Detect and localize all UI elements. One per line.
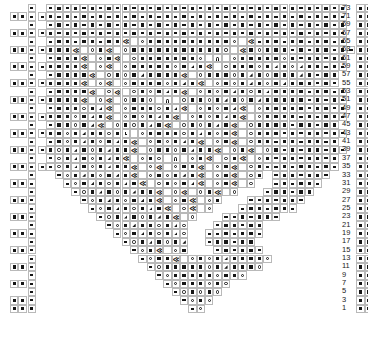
dash-symbol <box>29 97 35 103</box>
dash-symbol <box>47 105 53 111</box>
chart-cell <box>330 138 338 146</box>
chart-cell <box>205 96 213 104</box>
open-circle-symbol <box>123 47 129 53</box>
filled-square-symbol <box>56 22 62 28</box>
filled-square-symbol <box>231 222 237 228</box>
chart-cell <box>180 129 188 137</box>
filled-square-symbol <box>298 13 304 19</box>
dash-symbol <box>273 139 279 145</box>
dash-symbol <box>206 230 212 236</box>
open-circle-symbol <box>198 289 204 295</box>
chart-cell <box>138 146 146 154</box>
right-border-stitch <box>356 238 364 246</box>
triangle-bottom-right-symbol <box>223 264 229 270</box>
double-chevron-symbol: ≪ <box>72 47 78 53</box>
triangle-bottom-right-symbol <box>81 130 87 136</box>
dash-symbol <box>189 13 195 19</box>
filled-square-symbol <box>264 122 270 128</box>
dash-symbol <box>231 214 237 220</box>
filled-square-symbol <box>331 139 337 145</box>
chart-cell <box>147 54 155 62</box>
open-circle-symbol <box>97 97 103 103</box>
triangle-bottom-right-symbol <box>89 122 95 128</box>
dash-symbol <box>39 80 45 86</box>
chart-cell <box>247 113 255 121</box>
filled-square-symbol <box>306 80 312 86</box>
dash-symbol <box>139 13 145 19</box>
chart-cell <box>55 37 63 45</box>
filled-square-symbol <box>19 230 25 236</box>
filled-square-symbol <box>106 172 112 178</box>
dash-symbol <box>181 297 187 303</box>
dash-symbol <box>39 130 45 136</box>
left-border-stitch <box>10 129 18 137</box>
chart-cell <box>55 12 63 20</box>
filled-square-symbol <box>139 97 145 103</box>
chart-cell <box>88 129 96 137</box>
dash-symbol <box>29 264 35 270</box>
chart-cell <box>255 96 263 104</box>
dash-symbol <box>89 205 95 211</box>
triangle-bottom-right-symbol <box>264 89 270 95</box>
filled-square-symbol <box>273 38 279 44</box>
chart-cell <box>122 196 130 204</box>
chart-cell <box>280 154 288 162</box>
chart-cell <box>155 96 163 104</box>
filled-square-symbol <box>156 89 162 95</box>
filled-square-symbol <box>281 180 287 186</box>
chart-cell <box>80 71 88 79</box>
right-border-stitch <box>365 188 368 196</box>
filled-square-symbol <box>223 230 229 236</box>
filled-square-symbol <box>248 13 254 19</box>
filled-square-symbol <box>56 80 62 86</box>
double-chevron-symbol: ≪ <box>131 139 137 145</box>
chart-cell <box>255 104 263 112</box>
filled-square-symbol <box>223 72 229 78</box>
filled-square-symbol <box>298 38 304 44</box>
filled-square-symbol <box>139 89 145 95</box>
filled-square-symbol <box>164 264 170 270</box>
filled-square-symbol <box>189 130 195 136</box>
filled-square-symbol <box>11 80 17 86</box>
chart-cell <box>247 62 255 70</box>
filled-square-symbol <box>256 222 262 228</box>
open-circle-symbol <box>173 180 179 186</box>
chart-cell <box>247 246 255 254</box>
filled-square-symbol <box>11 97 17 103</box>
open-circle-symbol <box>139 155 145 161</box>
double-chevron-symbol: ≪ <box>189 205 195 211</box>
chart-cell <box>63 163 71 171</box>
chart-cell <box>172 79 180 87</box>
filled-square-symbol <box>11 197 17 203</box>
open-circle-symbol <box>89 197 95 203</box>
chart-cell <box>314 88 322 96</box>
chart-cell <box>297 146 305 154</box>
filled-square-symbol <box>173 47 179 53</box>
filled-square-symbol <box>331 63 337 69</box>
chart-cell <box>122 12 130 20</box>
chart-cell <box>297 121 305 129</box>
chart-cell <box>172 21 180 29</box>
left-spacer-stitch <box>28 4 36 12</box>
dash-symbol <box>214 247 220 253</box>
chart-cell <box>105 146 113 154</box>
chart-cell: ≪ <box>230 129 238 137</box>
left-border-stitch <box>18 305 26 313</box>
chart-cell <box>180 229 188 237</box>
open-circle-symbol <box>198 89 204 95</box>
dash-symbol <box>273 155 279 161</box>
chart-cell <box>247 154 255 162</box>
chart-cell <box>188 46 196 54</box>
filled-square-symbol <box>357 214 363 220</box>
filled-square-symbol <box>56 89 62 95</box>
triangle-bottom-right-symbol <box>114 205 120 211</box>
open-circle-symbol <box>214 172 220 178</box>
filled-square-symbol <box>198 38 204 44</box>
right-border-stitch <box>356 113 364 121</box>
chart-cell <box>297 62 305 70</box>
triangle-bottom-right-symbol <box>81 139 87 145</box>
filled-square-symbol <box>148 105 154 111</box>
chart-cell <box>88 204 96 212</box>
filled-square-symbol <box>11 281 17 287</box>
chart-cell <box>122 62 130 70</box>
